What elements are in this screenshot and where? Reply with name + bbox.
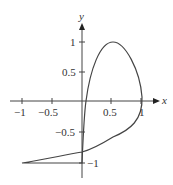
chart: x y −1 −0.5 0.5 1 1 0.5 −0.5 −1: [0, 0, 173, 185]
ytick-m05: −0.5: [55, 126, 75, 138]
xtick-m05: −0.5: [38, 106, 58, 118]
ytick-m1: −1: [87, 157, 99, 169]
xtick-05: 0.5: [103, 106, 117, 118]
xtick-1: 1: [139, 106, 145, 118]
y-label: y: [78, 10, 84, 22]
ytick-05: 0.5: [62, 66, 76, 78]
xtick-m1: −1: [14, 106, 26, 118]
plot: x y −1 −0.5 0.5 1 1 0.5 −0.5 −1: [0, 0, 173, 185]
ytick-1: 1: [70, 36, 76, 48]
x-label: x: [161, 94, 167, 106]
y-arrow-icon: [79, 23, 85, 30]
x-arrow-icon: [153, 98, 160, 104]
